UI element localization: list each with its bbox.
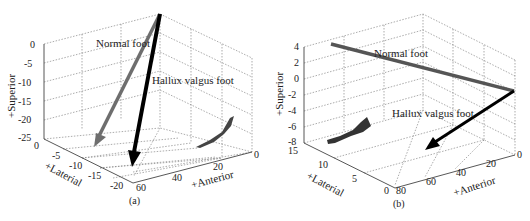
panel-a-y-tick: -10: [69, 161, 82, 171]
panel-b-caption: (b): [393, 199, 405, 209]
panel-b-y-tick: 10: [318, 160, 328, 170]
panel-b-x-tick: 0: [517, 150, 522, 160]
panel-a-z-tick: -15: [18, 97, 31, 107]
panel-b-normal-foot-label: Normal foot: [374, 48, 428, 59]
panel-a-hallux-label: Hallux valgus foot: [152, 75, 234, 86]
panel-b-hallux-arrow: [425, 91, 514, 150]
panel-a-z-tick: -25: [18, 133, 31, 143]
figure: Normal foot Hallux valgus foot 0 -5 -10 …: [0, 0, 530, 221]
panel-a-plot: [0, 0, 265, 221]
panel-a-normal-foot-label: Normal foot: [96, 38, 150, 49]
panel-b-z-label: +Superior: [274, 72, 285, 116]
panel-b-x-tick: 20: [486, 159, 496, 169]
panel-a-y-tick: 0: [34, 141, 39, 151]
panel-b-z-tick: -2: [288, 90, 296, 100]
panel-b-y-tick: 0: [384, 186, 389, 196]
panel-b-y-tick: 15: [288, 146, 298, 156]
panel-a-y-tick: -15: [88, 171, 101, 181]
panel-a-z-label: +Superior: [6, 74, 17, 118]
panel-b-x-axis: [395, 155, 515, 188]
panel-b-grid: [304, 14, 515, 185]
panel-b-hallux-label: Hallux valgus foot: [392, 108, 474, 119]
panel-b-z-tick: -6: [288, 122, 296, 132]
panel-b-z-tick: 0: [294, 74, 299, 84]
panel-a-z-tick: -5: [24, 59, 32, 69]
panel-a-z-tick: -10: [18, 78, 31, 88]
panel-a-y-tick: -5: [52, 151, 60, 161]
panel-b-foot-bone-shape: [327, 117, 371, 144]
panel-b-z-tick: -4: [288, 106, 296, 116]
panel-a-x-tick: 60: [136, 183, 146, 193]
panel-a-x-tick: 40: [172, 173, 182, 183]
panel-a-z-tick: -20: [18, 115, 31, 125]
panel-a-x-tick: 0: [254, 150, 259, 160]
panel-b-z-tick: 2: [294, 58, 299, 68]
panel-b-x-tick: 40: [456, 168, 466, 178]
panel-b-x-tick: 60: [426, 177, 436, 187]
panel-b-z-tick: 4: [294, 42, 299, 52]
panel-a-caption: (a): [129, 196, 140, 206]
panel-a-normal-foot-arrow: [94, 14, 160, 147]
panel-a-foot-bone-shape: [196, 116, 234, 148]
panel-b-y-tick: 5: [352, 174, 357, 184]
panel-b-x-tick: 80: [396, 186, 406, 196]
panel-a-y-tick: -20: [110, 181, 123, 191]
panel-a-z-tick: 0: [30, 40, 35, 50]
